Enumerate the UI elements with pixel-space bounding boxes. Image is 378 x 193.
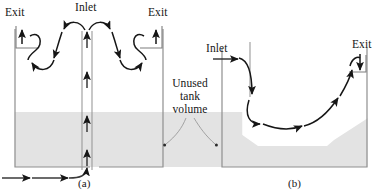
figure-canvas: Exit Inlet Exit Unused tank volume Inlet… (0, 0, 378, 193)
label-inlet-b: Inlet (206, 42, 228, 55)
label-exit-right: Exit (148, 6, 168, 19)
label-unused-line3: volume (160, 103, 220, 116)
circulation-b-bottom (263, 124, 302, 129)
liquid-fill-trough (221, 118, 368, 168)
exit-bracket-left (16, 26, 38, 48)
label-exit-b: Exit (352, 38, 372, 51)
feed-line-a (2, 168, 87, 178)
circulation-b-rise (304, 98, 338, 126)
caption-a: (a) (78, 177, 91, 190)
circulation-left-down (54, 32, 62, 58)
circulation-left-loop (28, 35, 40, 60)
liquid-fill-right (95, 112, 243, 167)
circulation-right-sweep (120, 60, 142, 69)
exit-bracket-right (140, 26, 162, 48)
circulation-right-down (112, 32, 120, 58)
inlet-splash-arc-left (64, 22, 85, 30)
label-inlet-top: Inlet (75, 1, 97, 14)
circulation-right-loop (134, 35, 146, 60)
inlet-splash-arc-right (89, 22, 110, 30)
label-unused-line2: tank (160, 90, 220, 103)
label-unused-line1: Unused (160, 77, 220, 90)
leader-dot-left (163, 144, 166, 147)
leader-dot-right (215, 144, 218, 147)
circulation-b-hook (350, 57, 360, 66)
circulation-left-sweep (32, 60, 54, 69)
circulation-b-rise2 (340, 70, 352, 96)
circulation-b-down (247, 100, 260, 124)
caption-b: (b) (288, 177, 301, 190)
label-exit-left: Exit (5, 6, 25, 19)
